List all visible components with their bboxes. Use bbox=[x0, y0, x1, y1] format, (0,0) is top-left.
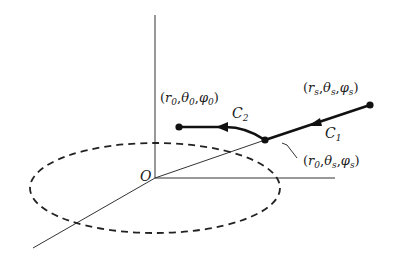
label-c2: C2 bbox=[232, 105, 249, 123]
point-end bbox=[175, 123, 182, 130]
label-end: (r0,θ0,φ0) bbox=[160, 90, 219, 107]
point-corner bbox=[261, 136, 268, 143]
point-start bbox=[366, 101, 373, 108]
arrow-c2-icon bbox=[216, 122, 228, 132]
label-corner: (r0,θs,φs) bbox=[303, 153, 360, 170]
diagram-canvas: O (r0,θ0,φ0) (rs,θs,φs) (r0,θs,φs) C2 C1 bbox=[0, 0, 399, 259]
origin-label: O bbox=[140, 168, 152, 184]
x-axis bbox=[33, 178, 155, 248]
leader-line bbox=[282, 143, 297, 158]
label-c1: C1 bbox=[325, 125, 341, 143]
arrow-c1-icon bbox=[308, 118, 322, 126]
label-start: (rs,θs,φs) bbox=[303, 80, 358, 97]
